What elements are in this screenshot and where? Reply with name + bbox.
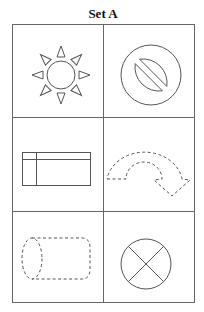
summing-junction-icon (121, 239, 171, 289)
grid-lines (13, 25, 195, 303)
u-turn-arrow-icon (107, 152, 190, 196)
sun-icon (32, 46, 90, 104)
cylinder-icon (22, 238, 90, 279)
prohibition-icon (121, 45, 181, 105)
symbol-grid (0, 0, 204, 312)
internal-storage-icon (23, 153, 91, 186)
